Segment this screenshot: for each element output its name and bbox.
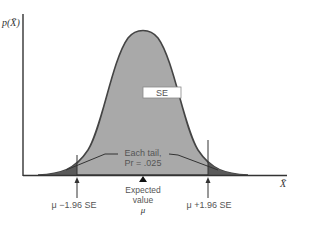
mean-triangle-icon <box>139 176 147 182</box>
tail-note-line1: Each tail, <box>124 148 161 158</box>
left-critical-label: μ −1.96 SE <box>52 200 97 210</box>
left-arrow-head-icon <box>75 177 80 183</box>
se-label: SE <box>156 88 168 98</box>
y-axis-label: p(X̄) <box>1 17 20 29</box>
x-axis-label: X̄ <box>279 178 287 189</box>
value-label: value <box>133 195 154 205</box>
right-arrow-head-icon <box>206 177 211 183</box>
sampling-distribution-diagram: SE Each tail, Pr = .025 Expected value μ… <box>0 0 310 232</box>
expected-label: Expected <box>125 185 161 195</box>
mu-label: μ <box>140 205 146 215</box>
tail-note-line2: Pr = .025 <box>125 158 162 168</box>
right-critical-label: μ +1.96 SE <box>187 200 232 210</box>
